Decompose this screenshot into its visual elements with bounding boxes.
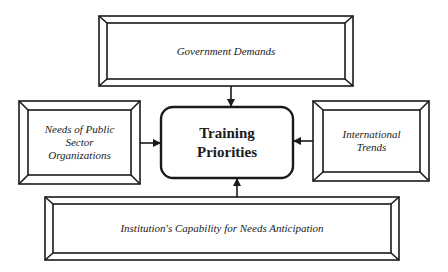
bottom-box-label: Institution's Capability for Needs Antic… xyxy=(120,222,323,235)
right-box-line2: Trends xyxy=(357,141,387,154)
left-box-line3: Organizations xyxy=(48,149,111,162)
right-box: International Trends xyxy=(323,110,420,172)
center-box-line2: Priorities xyxy=(197,143,257,162)
top-box-label: Government Demands xyxy=(177,45,276,58)
center-box-line1: Training xyxy=(199,124,255,143)
top-box: Government Demands xyxy=(107,23,345,79)
bottom-box: Institution's Capability for Needs Antic… xyxy=(53,204,391,253)
left-box-line2: Sector xyxy=(65,136,93,149)
left-box-line1: Needs of Public xyxy=(45,123,115,136)
right-box-line1: International xyxy=(342,128,400,141)
center-box: Training Priorities xyxy=(161,107,293,178)
left-box: Needs of Public Sector Organizations xyxy=(28,110,131,175)
